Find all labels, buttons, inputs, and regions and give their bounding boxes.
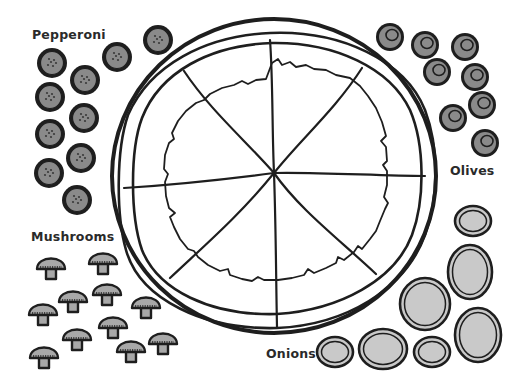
onion-icon[interactable] — [400, 278, 450, 330]
mushroom-icon[interactable] — [63, 330, 91, 351]
onion-icon[interactable] — [359, 329, 407, 369]
pepperoni-icon[interactable] — [35, 82, 65, 112]
mushroom-icon[interactable] — [149, 334, 177, 355]
mushroom-icon[interactable] — [29, 305, 57, 326]
mushroom-icon[interactable] — [59, 292, 87, 313]
olive-icon[interactable] — [461, 63, 489, 91]
onion-icon[interactable] — [455, 308, 501, 362]
olive-icon[interactable] — [451, 33, 479, 61]
pepperoni-label: Pepperoni — [32, 27, 106, 42]
mushroom-icon[interactable] — [93, 285, 121, 306]
pepperoni-icon[interactable] — [69, 103, 99, 133]
onion-icon[interactable] — [448, 245, 492, 299]
onions-group — [317, 206, 501, 369]
pepperoni-icon[interactable] — [34, 158, 64, 188]
pepperoni-icon[interactable] — [66, 143, 96, 173]
onions-label: Onions — [266, 346, 316, 361]
olive-icon[interactable] — [376, 23, 404, 51]
olives-group — [376, 23, 499, 157]
pepperoni-icon[interactable] — [37, 48, 67, 78]
olive-icon[interactable] — [471, 129, 499, 157]
pepperoni-icon[interactable] — [70, 65, 100, 95]
onion-icon[interactable] — [455, 206, 491, 236]
olive-icon[interactable] — [468, 91, 496, 119]
mushroom-icon[interactable] — [132, 298, 160, 319]
pepperoni-icon[interactable] — [62, 185, 92, 215]
pizza — [112, 19, 436, 333]
pizza-toppings-worksheet — [0, 0, 528, 391]
olive-icon[interactable] — [439, 104, 467, 132]
olives-label: Olives — [450, 163, 494, 178]
mushroom-icon[interactable] — [117, 342, 145, 363]
mushroom-icon[interactable] — [30, 348, 58, 369]
olive-icon[interactable] — [411, 31, 439, 59]
mushroom-icon[interactable] — [37, 259, 65, 280]
olive-icon[interactable] — [423, 58, 451, 86]
pepperoni-icon[interactable] — [102, 42, 132, 72]
mushrooms-label: Mushrooms — [31, 229, 114, 244]
pepperoni-icon[interactable] — [35, 119, 65, 149]
pepperoni-icon[interactable] — [143, 25, 173, 55]
onion-icon[interactable] — [317, 337, 353, 367]
mushroom-icon[interactable] — [89, 254, 117, 275]
mushroom-icon[interactable] — [99, 318, 127, 339]
onion-icon[interactable] — [414, 337, 450, 367]
